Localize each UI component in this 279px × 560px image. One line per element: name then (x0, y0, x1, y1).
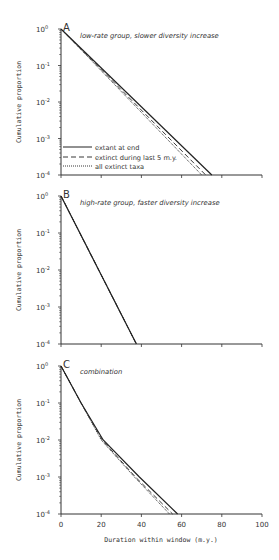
panel-subtitle: high-rate group, faster diversity increa… (80, 199, 220, 207)
y-tick-label: 10-1 (36, 61, 50, 71)
y-tick-label: 100 (36, 24, 48, 34)
x-tick-label: 100 (255, 521, 268, 529)
y-tick-label: 10-4 (36, 170, 50, 180)
panel-c: 10010-110-210-310-4020406080100Cumulativ… (15, 359, 269, 529)
x-tick-label: 0 (59, 521, 63, 529)
panel-letter: C (63, 359, 70, 370)
y-tick-label: 10-2 (36, 97, 50, 107)
series-extinct-during-last-5-m-y- (61, 366, 173, 514)
y-tick-label: 10-1 (36, 398, 50, 408)
panel-letter: B (63, 189, 70, 200)
y-axis-label: Cumulative proportion (15, 229, 23, 311)
x-tick-label: 80 (217, 521, 226, 529)
x-tick-label: 60 (177, 521, 186, 529)
y-tick-label: 100 (36, 191, 48, 201)
y-axis-label: Cumulative proportion (15, 399, 23, 481)
y-axis-label: Cumulative proportion (15, 61, 23, 143)
legend-label: extinct during last 5 m.y. (95, 154, 177, 162)
y-tick-label: 10-4 (36, 339, 50, 349)
series-all-extinct-taxa (61, 366, 170, 514)
y-tick-label: 10-3 (36, 472, 50, 482)
legend-label: extant at end (95, 144, 139, 152)
panel-subtitle: combination (80, 368, 122, 376)
figure: 10010-110-210-310-4Cumulative proportion… (0, 0, 279, 560)
x-axis-label: Duration within window (m.y.) (104, 536, 218, 544)
chart-canvas: 10010-110-210-310-4Cumulative proportion… (0, 0, 279, 560)
panel-subtitle: low-rate group, slower diversity increas… (80, 32, 219, 40)
panel-a: 10010-110-210-310-4Cumulative proportion… (15, 22, 262, 180)
series-extant-at-end (61, 366, 178, 514)
y-tick-label: 10-1 (36, 228, 50, 238)
y-tick-label: 10-4 (36, 509, 50, 519)
y-tick-label: 10-3 (36, 134, 50, 144)
y-tick-label: 10-2 (36, 435, 50, 445)
legend-label: all extinct taxa (95, 163, 144, 171)
panel-b: 10010-110-210-310-4Cumulative proportion… (15, 189, 262, 349)
x-tick-label: 20 (97, 521, 106, 529)
y-tick-label: 100 (36, 361, 48, 371)
y-tick-label: 10-3 (36, 302, 50, 312)
x-tick-label: 40 (137, 521, 146, 529)
y-tick-label: 10-2 (36, 265, 50, 275)
